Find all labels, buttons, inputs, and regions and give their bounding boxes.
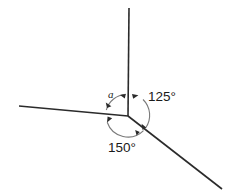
arrowhead-left-down (107, 116, 112, 122)
rays-group (19, 8, 222, 189)
unknown-angle-label: a (108, 88, 114, 100)
angle-diagram: a 125° 150° (0, 0, 228, 191)
lower-right-ray (128, 116, 222, 189)
up-ray (128, 8, 129, 116)
arrowhead-left-up (106, 103, 112, 108)
left-ray (19, 106, 128, 116)
right-angle-label: 125° (148, 89, 176, 104)
bottom-angle-label: 150° (108, 140, 136, 155)
diagram-canvas: a 125° 150° (0, 0, 228, 191)
arrowhead-up-right (132, 94, 138, 99)
